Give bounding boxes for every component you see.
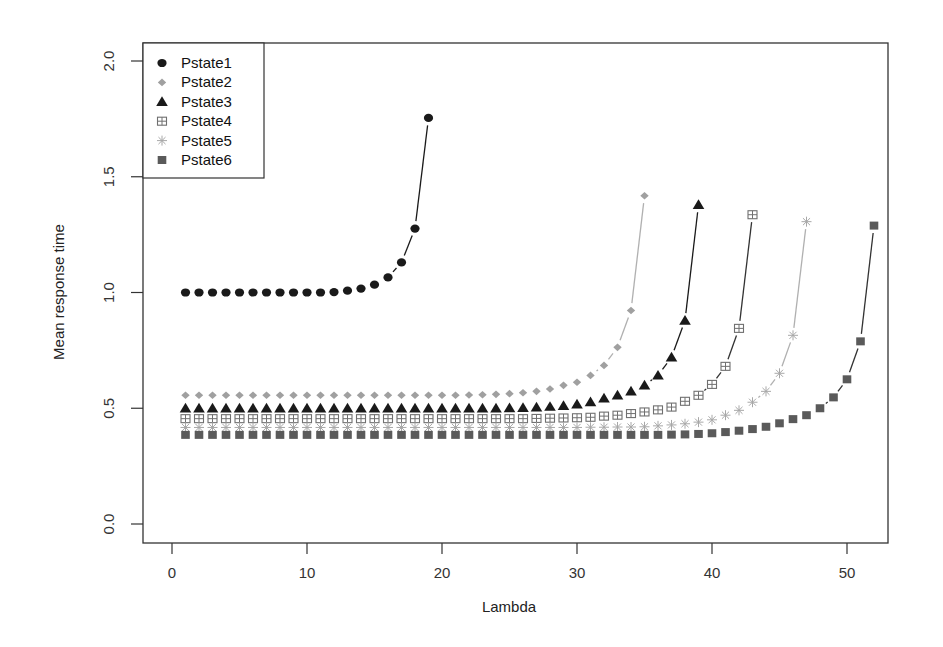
data-point xyxy=(424,114,433,122)
data-point xyxy=(424,415,433,423)
data-point xyxy=(384,415,393,423)
data-point xyxy=(478,431,487,439)
data-point xyxy=(357,415,366,423)
data-point xyxy=(694,391,703,399)
data-point xyxy=(640,408,649,416)
data-point xyxy=(316,431,325,439)
data-point xyxy=(735,427,744,435)
data-point xyxy=(329,288,338,296)
data-point xyxy=(775,419,784,427)
data-point xyxy=(816,404,825,412)
data-point xyxy=(843,375,852,383)
data-point xyxy=(249,415,258,423)
data-point xyxy=(303,431,312,439)
data-point xyxy=(707,415,717,425)
data-point xyxy=(586,431,595,439)
data-point xyxy=(465,431,474,439)
legend-label: Pstate6 xyxy=(181,151,232,168)
data-point xyxy=(208,288,217,296)
data-point xyxy=(411,415,420,423)
y-tick-label: 2.0 xyxy=(100,51,117,72)
data-point xyxy=(222,431,231,439)
data-point xyxy=(410,225,419,233)
data-point xyxy=(492,415,501,423)
line-chart: 0.00.51.01.52.0 01020304050 Lambda Mean … xyxy=(0,0,943,647)
data-point xyxy=(721,362,730,370)
data-point xyxy=(302,288,311,296)
data-point xyxy=(708,380,717,388)
data-point xyxy=(627,410,636,418)
legend-label: Pstate1 xyxy=(181,54,232,71)
data-point xyxy=(478,415,487,423)
circle-marker-icon xyxy=(157,59,166,67)
x-tick-label: 20 xyxy=(434,564,451,581)
data-point xyxy=(383,273,392,281)
data-point xyxy=(505,431,514,439)
data-point xyxy=(370,431,379,439)
y-tick-label: 0.0 xyxy=(100,514,117,535)
y-tick-label: 1.0 xyxy=(100,282,117,303)
data-point xyxy=(748,397,758,407)
x-tick-label: 10 xyxy=(299,564,316,581)
legend: Pstate1Pstate2Pstate3Pstate4Pstate5Pstat… xyxy=(143,43,264,178)
data-point xyxy=(600,431,609,439)
data-point xyxy=(222,415,231,423)
data-point xyxy=(276,431,285,439)
data-point xyxy=(721,410,731,420)
data-point xyxy=(181,415,190,423)
data-point xyxy=(451,431,460,439)
data-point xyxy=(748,425,757,433)
data-point xyxy=(573,431,582,439)
data-point xyxy=(802,217,812,227)
data-point xyxy=(303,415,312,423)
data-point xyxy=(694,430,703,438)
square-plus-marker-icon xyxy=(158,117,167,125)
data-point xyxy=(788,330,798,340)
x-tick-label: 40 xyxy=(704,564,721,581)
data-point xyxy=(613,422,623,432)
data-point xyxy=(438,415,447,423)
data-point xyxy=(519,431,528,439)
data-point xyxy=(775,368,785,378)
data-point xyxy=(761,386,771,396)
data-point xyxy=(343,431,352,439)
data-point xyxy=(330,431,339,439)
data-point xyxy=(289,431,298,439)
data-point xyxy=(235,288,244,296)
data-point xyxy=(235,415,244,423)
series-line-segment xyxy=(651,380,652,381)
data-point xyxy=(667,420,677,430)
data-point xyxy=(653,421,663,431)
data-point xyxy=(235,431,244,439)
legend-label: Pstate2 xyxy=(181,73,232,90)
data-point xyxy=(316,288,325,296)
x-axis-title: Lambda xyxy=(482,598,537,615)
data-point xyxy=(870,222,879,230)
x-tick-label: 50 xyxy=(839,564,856,581)
data-point xyxy=(708,429,717,437)
data-point xyxy=(262,415,271,423)
data-point xyxy=(546,431,555,439)
data-point xyxy=(532,431,541,439)
data-point xyxy=(370,281,379,289)
legend-label: Pstate5 xyxy=(181,132,232,149)
data-point xyxy=(735,324,744,332)
data-point xyxy=(613,431,622,439)
data-point xyxy=(667,403,676,411)
data-point xyxy=(613,411,622,419)
data-point xyxy=(208,415,217,423)
data-point xyxy=(248,288,257,296)
y-tick-label: 1.5 xyxy=(100,166,117,187)
data-point xyxy=(249,431,258,439)
data-point xyxy=(343,287,352,295)
data-point xyxy=(734,405,744,415)
data-point xyxy=(681,397,690,405)
legend-label: Pstate4 xyxy=(181,112,232,129)
series-line-segment xyxy=(597,370,598,371)
data-point xyxy=(316,415,325,423)
data-point xyxy=(681,430,690,438)
data-point xyxy=(397,431,406,439)
data-point xyxy=(505,415,514,423)
data-point xyxy=(626,422,636,432)
x-tick-label: 0 xyxy=(168,564,176,581)
